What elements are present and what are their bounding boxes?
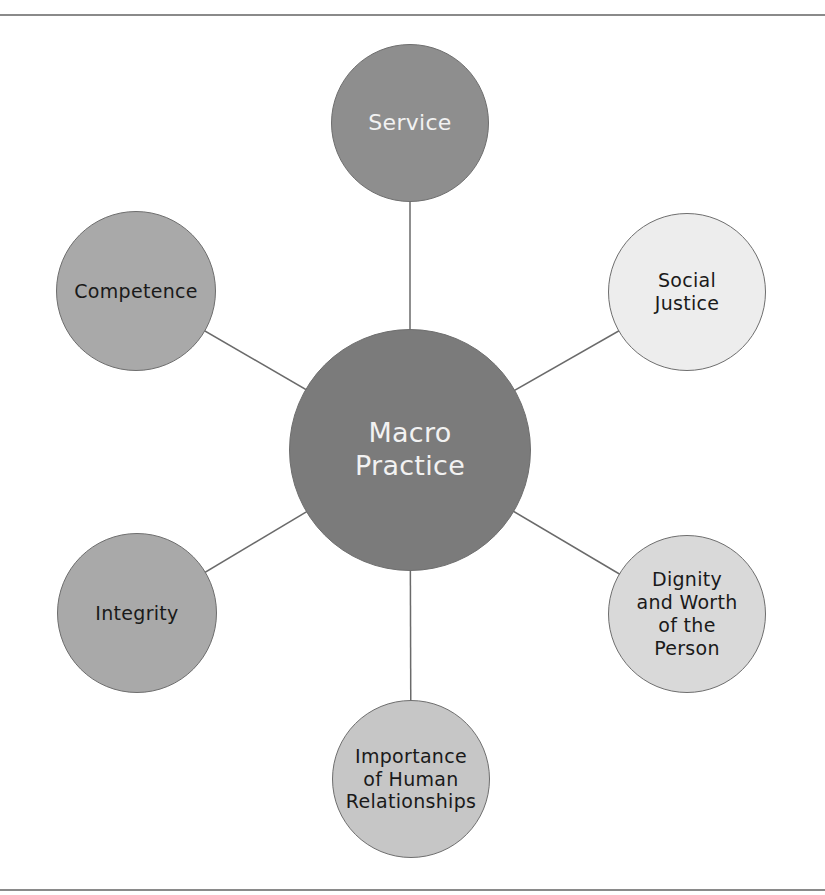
node-label-line: Importance (355, 745, 467, 768)
node-label-line: Social (658, 269, 716, 292)
node-macro-practice: Macro Practice (289, 329, 531, 571)
node-dignity-and-worth: Dignity and Worth of the Person (608, 535, 766, 693)
bottom-rule (0, 889, 825, 891)
node-label-line: Dignity (652, 568, 722, 591)
node-label-line: and Worth (636, 591, 737, 614)
node-integrity: Integrity (57, 533, 217, 693)
node-label-line: Integrity (95, 602, 178, 625)
node-label-line: Relationships (346, 790, 476, 813)
node-social-justice: Social Justice (608, 213, 766, 371)
node-label-line: Justice (655, 292, 720, 315)
node-label-line: Practice (355, 450, 465, 483)
node-label-line: Macro (368, 417, 451, 450)
node-label-line: of Human (363, 768, 458, 791)
node-label-line: Service (368, 110, 451, 136)
node-service: Service (331, 44, 489, 202)
node-label-line: of the (658, 614, 715, 637)
node-importance-of-human-relationships: Importance of Human Relationships (332, 700, 490, 858)
node-label-line: Competence (74, 280, 197, 303)
node-competence: Competence (56, 211, 216, 371)
node-label-line: Person (654, 637, 720, 660)
